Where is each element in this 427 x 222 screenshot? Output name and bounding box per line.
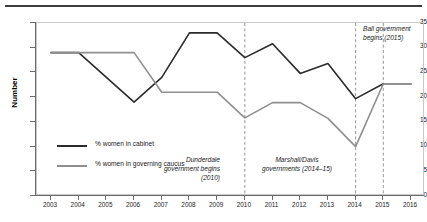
x-axis-tick — [188, 196, 189, 200]
series-canvas — [37, 23, 425, 196]
x-axis-tick — [161, 196, 162, 200]
annotation-ball: Ball government begins (2015) — [363, 24, 421, 42]
x-axis-tick — [105, 196, 106, 200]
x-axis-tick — [216, 196, 217, 200]
y-axis-title: Number — [10, 63, 19, 123]
legend-swatch-caucus — [57, 165, 87, 167]
x-axis-tick — [355, 196, 356, 200]
x-axis-tick — [410, 196, 411, 200]
legend-swatch-cabinet — [57, 145, 87, 147]
legend-label-cabinet: % women in cabinet — [95, 139, 215, 148]
x-axis-tick — [327, 196, 328, 200]
header-rule — [5, 5, 422, 7]
x-axis-tick — [50, 196, 51, 200]
chart-figure: Number 05101520253035 200320042005200620… — [0, 0, 427, 222]
x-axis-tick — [299, 196, 300, 200]
x-axis-tick — [244, 196, 245, 200]
annotation-marshall: Marshall/Davis governments (2014–15) — [258, 155, 336, 173]
series-line-cabinet — [51, 33, 411, 102]
annotation-dunderdale: Dunderdale government begins (2010) — [160, 155, 220, 183]
x-axis-line — [35, 195, 424, 196]
x-axis-tick — [133, 196, 134, 200]
x-axis-tick — [382, 196, 383, 200]
x-axis-tick-label: 2016 — [393, 202, 427, 208]
x-axis-tick — [78, 196, 79, 200]
series-line-caucus — [51, 53, 411, 147]
x-axis-tick — [272, 196, 273, 200]
plot-area — [36, 22, 424, 195]
